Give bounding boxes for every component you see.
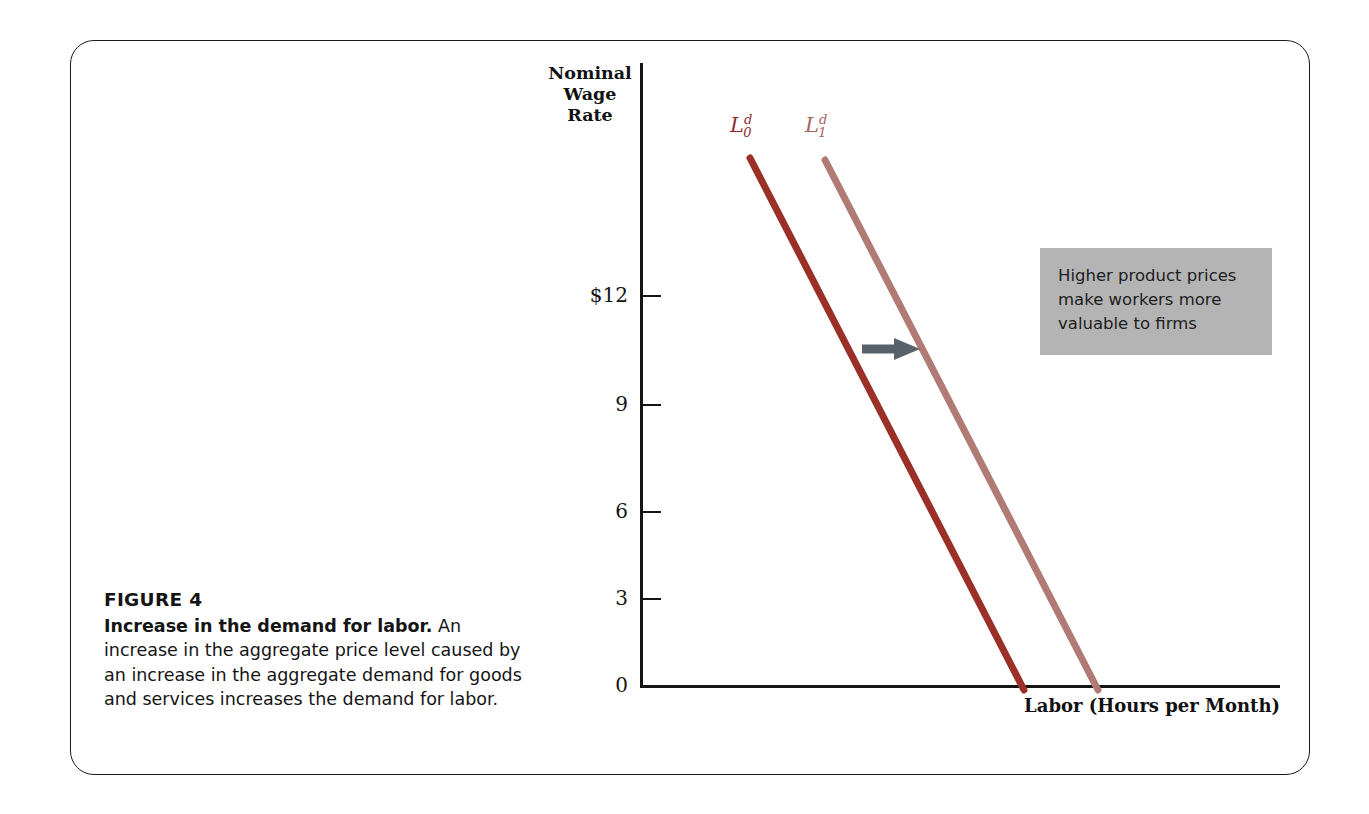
curve-label-0-sub: 0 <box>743 125 751 140</box>
curve-label-L0d: Ld0 <box>730 113 752 137</box>
chart-plot-area: Nominal Wage Rate $12 9 6 3 0 Labor (Hou… <box>540 45 1320 735</box>
figure-number: FIGURE 4 <box>104 588 524 613</box>
chart-curves <box>540 45 1320 735</box>
demand-curve-L1d <box>825 160 1098 690</box>
annotation-line-1: Higher product prices <box>1058 264 1272 288</box>
annotation-line-2: make workers more <box>1058 288 1272 312</box>
annotation-line-3: valuable to firms <box>1058 312 1272 336</box>
curve-label-1-sub: 1 <box>818 125 826 140</box>
annotation-text-box: Higher product prices make workers more … <box>1040 248 1272 355</box>
curve-label-0-base: L <box>730 113 744 137</box>
shift-arrow-icon <box>862 338 920 360</box>
demand-curve-L0d <box>750 158 1024 690</box>
figure-caption: FIGURE 4 Increase in the demand for labo… <box>104 588 524 712</box>
curve-label-L1d: Ld1 <box>805 113 827 137</box>
curve-label-1-base: L <box>805 113 819 137</box>
figure-caption-title: Increase in the demand for labor. <box>104 616 432 636</box>
